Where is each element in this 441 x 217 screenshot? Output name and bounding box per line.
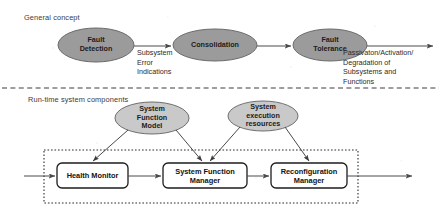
section-label-runtime-components: Run-time system components — [28, 95, 128, 104]
block-system-function-manager — [163, 163, 247, 188]
edge-sfmodel-to-health — [93, 130, 128, 161]
edge-label-subsystem-error-indications: Subsystem Error Indications — [137, 48, 193, 77]
block-reconfiguration-manager — [271, 163, 347, 188]
edge-resources-to-reconfig — [285, 127, 309, 161]
node-fault-detection — [58, 28, 134, 62]
node-system-function-model — [115, 102, 189, 134]
diagram-canvas: General concept Run-time system componen… — [0, 0, 441, 217]
edge-sfmodel-to-sfmanager — [176, 130, 202, 161]
edge-resources-to-sfmanager — [210, 127, 240, 161]
node-system-execution-resources — [228, 101, 298, 131]
diagram-vector-layer — [0, 0, 441, 217]
block-health-monitor — [57, 163, 128, 188]
section-label-general-concept: General concept — [24, 13, 80, 22]
edge-label-passivation-activation: Passivaton/Activation/ Degradation of Su… — [343, 48, 441, 86]
